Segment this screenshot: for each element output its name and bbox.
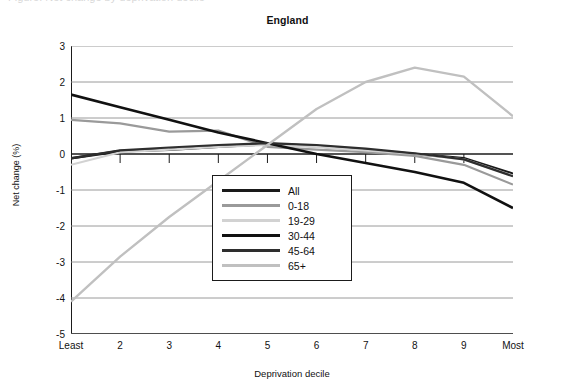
legend-label: 45-64 [280, 245, 315, 257]
y-axis-tick-label: -1 [56, 185, 65, 196]
legend-label: All [280, 185, 300, 197]
y-axis-tick-label: 1 [59, 113, 65, 124]
x-axis-tick-label: 2 [117, 340, 123, 351]
y-axis-tick-label: -5 [56, 329, 65, 340]
legend-label: 30-44 [280, 230, 315, 242]
x-axis-tick-label: 8 [412, 340, 418, 351]
legend-item: All [222, 183, 342, 198]
legend-swatch [222, 219, 280, 221]
legend-label: 65+ [280, 260, 306, 272]
legend-item: 0-18 [222, 198, 342, 213]
legend-item: 65+ [222, 258, 342, 273]
x-axis-tick-label: 9 [461, 340, 467, 351]
x-axis-tick-label: Most [502, 340, 524, 351]
x-axis-tick-label: 5 [265, 340, 271, 351]
legend-item: 45-64 [222, 243, 342, 258]
y-axis-label: Net change (%) [11, 115, 21, 235]
legend-item: 19-29 [222, 213, 342, 228]
x-axis-label: Deprivation decile [71, 368, 513, 379]
y-axis-tick-label: -3 [56, 257, 65, 268]
x-axis-tick-label: Least [59, 340, 83, 351]
y-axis-tick-label: 0 [59, 149, 65, 160]
legend-label: 0-18 [280, 200, 309, 212]
y-axis-tick-label: -4 [56, 293, 65, 304]
x-axis-tick-label: 4 [216, 340, 222, 351]
x-axis-tick-label: 6 [314, 340, 320, 351]
chart-title: England [0, 14, 575, 26]
cut-off-header-text: Figure: Net change by deprivation decile [0, 0, 575, 8]
y-axis-tick-label: -2 [56, 221, 65, 232]
legend-label: 19-29 [280, 215, 315, 227]
legend-swatch [222, 204, 280, 206]
legend-swatch [222, 189, 280, 192]
legend-swatch [222, 234, 280, 237]
chart-legend: All0-1819-2930-4445-6465+ [212, 175, 352, 281]
x-axis-tick-label: 7 [363, 340, 369, 351]
legend-item: 30-44 [222, 228, 342, 243]
legend-swatch [222, 264, 280, 266]
legend-swatch [222, 249, 280, 251]
y-axis-tick-label: 3 [59, 41, 65, 52]
x-axis-tick-label: 3 [166, 340, 172, 351]
chart-figure: Figure: Net change by deprivation decile… [0, 0, 575, 391]
y-axis-tick-label: 2 [59, 77, 65, 88]
